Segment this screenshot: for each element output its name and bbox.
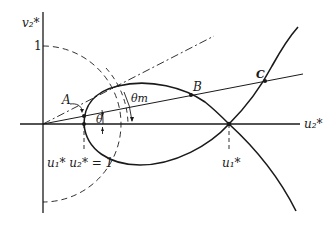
- horizontal-axis-label: u₂*: [304, 117, 323, 131]
- point-crossing: [227, 122, 232, 127]
- label-u1-star: u₁*: [222, 156, 241, 170]
- loop-upper-curve: [84, 83, 229, 124]
- point-axis-origin-hyperbola: [82, 122, 86, 126]
- label-b: B: [192, 80, 202, 94]
- theta-m-arrow: [130, 117, 134, 122]
- vertical-axis-label: v₂*: [22, 16, 40, 30]
- point-a: [82, 114, 86, 118]
- label-hyperbola-eq: u₁* u₂* = 1: [47, 156, 113, 170]
- label-a: A: [61, 93, 71, 107]
- theta-m-arc-dashed: [106, 68, 128, 124]
- diagram-svg: v₂* 1 u₂* A B C θ θm u₁* u₂* = 1 u₁*: [0, 0, 335, 228]
- vertical-tick-label: 1: [34, 39, 42, 53]
- label-theta-m: θm: [131, 92, 148, 105]
- label-c: C: [256, 68, 265, 81]
- diagram-canvas: v₂* 1 u₂* A B C θ θm u₁* u₂* = 1 u₁*: [0, 0, 335, 228]
- label-theta: θ: [96, 113, 103, 126]
- a-pointer-arrowhead: [80, 109, 84, 113]
- tangent-line-dashdot: [43, 36, 214, 124]
